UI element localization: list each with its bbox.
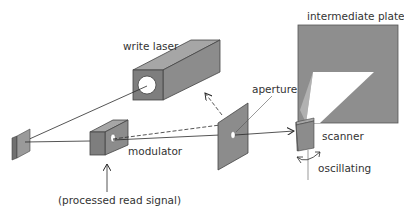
aperture-label: aperture [252,83,297,95]
modulator-label: modulator [128,145,183,157]
oscillating-label: oscillating [318,162,371,174]
intermediate-plate-label: intermediate plate [307,10,404,22]
beam-mirror-to-modulator [25,141,90,142]
beam-modulator-to-aperture [113,135,220,140]
modulator-hole-icon [111,134,116,142]
deflected-beam-arrow [205,93,222,115]
oscillating-arrow-icon [297,152,320,160]
aperture-plate [218,103,248,170]
laser-scanning-diagram: write laser intermediate plate aperture … [0,0,404,216]
laser-aperture-icon [138,76,156,94]
aperture-hole-icon [231,132,235,139]
scanner-label: scanner [322,130,364,142]
intermediate-plate [298,25,398,123]
fold-mirror [12,129,30,160]
scanner [296,118,314,151]
write-laser-label: write laser [123,40,179,52]
processed-read-signal-label: (processed read signal) [58,194,181,206]
beam-deflected-dashed [113,125,220,139]
beam-laser-to-mirror [25,86,147,141]
